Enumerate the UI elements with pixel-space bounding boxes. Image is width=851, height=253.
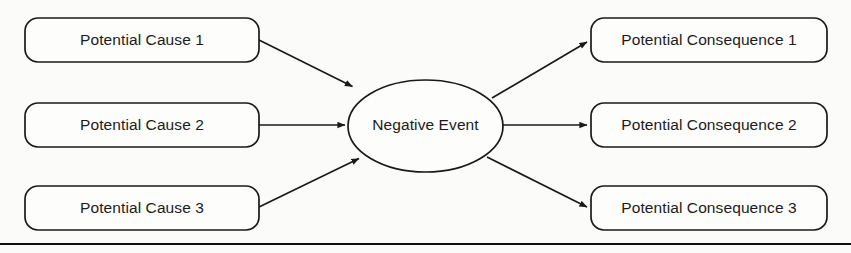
cause-node-cause-3[interactable]: Potential Cause 3 [25, 186, 259, 230]
consequence-node-consequence-1[interactable]: Potential Consequence 1 [591, 18, 827, 62]
diagram-page: Potential Cause 1 Potential Cause 2 Pote… [0, 0, 851, 253]
consequence-1-label: Potential Consequence 1 [621, 31, 797, 48]
consequence-3-label: Potential Consequence 3 [621, 199, 797, 216]
consequence-2-label: Potential Consequence 2 [621, 116, 797, 133]
arrow-event-to-consequence-1 [492, 42, 587, 98]
negative-event-label: Negative Event [372, 116, 479, 133]
arrow-cause-3-to-event [259, 159, 359, 208]
cause-2-label: Potential Cause 2 [80, 116, 204, 133]
consequence-node-consequence-3[interactable]: Potential Consequence 3 [591, 186, 827, 230]
cause-1-label: Potential Cause 1 [80, 31, 204, 48]
cause-node-cause-2[interactable]: Potential Cause 2 [25, 103, 259, 147]
consequence-node-consequence-2[interactable]: Potential Consequence 2 [591, 103, 827, 147]
cause-consequence-diagram: Potential Cause 1 Potential Cause 2 Pote… [0, 0, 851, 253]
arrow-cause-1-to-event [259, 40, 353, 87]
center-node-negative-event[interactable]: Negative Event [348, 80, 503, 172]
cause-3-label: Potential Cause 3 [80, 199, 204, 216]
cause-node-cause-1[interactable]: Potential Cause 1 [25, 18, 259, 62]
arrow-event-to-consequence-3 [487, 157, 587, 207]
